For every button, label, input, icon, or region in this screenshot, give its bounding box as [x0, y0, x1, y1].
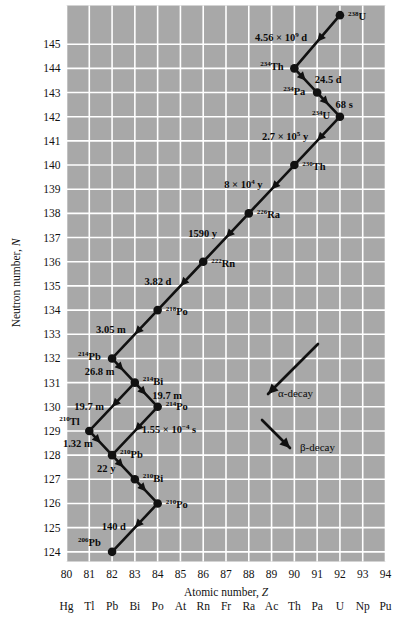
- nuclide-point: [153, 402, 162, 411]
- nuclide-point: [108, 451, 117, 460]
- x-tick-label: 91: [311, 568, 323, 580]
- y-tick-label: 142: [43, 111, 61, 123]
- element-symbol-row: HgTlPbBiPoAtRnFrRaAcThPaUNpPu: [59, 600, 391, 613]
- x-tick-label: 90: [289, 568, 301, 580]
- y-tick-label: 144: [43, 62, 61, 74]
- nuclide-point: [336, 112, 345, 121]
- element-symbol: Fr: [221, 600, 231, 612]
- element-symbol: Np: [356, 600, 370, 613]
- x-tick-label: 80: [61, 568, 73, 580]
- y-tick-label: 126: [43, 497, 61, 509]
- y-tick-label: 136: [43, 256, 61, 268]
- nuclide-point: [153, 499, 162, 508]
- nuclide-point: [85, 427, 94, 436]
- half-life-label: 1.32 m: [63, 438, 93, 449]
- y-tick-label: 141: [43, 135, 61, 147]
- half-life-label: 22 y: [97, 463, 116, 474]
- half-life-label: 26.8 m: [85, 366, 115, 377]
- y-tick-label: 140: [43, 159, 61, 171]
- element-symbol: Tl: [84, 600, 94, 612]
- nuclide-point: [313, 88, 322, 97]
- y-tick-label: 132: [43, 352, 61, 364]
- y-tick-label: 125: [43, 522, 61, 534]
- half-life-label: 3.05 m: [96, 324, 126, 335]
- nuclide-point: [199, 257, 208, 266]
- y-tick-label: 124: [43, 546, 61, 558]
- nuclide-point: [290, 161, 299, 170]
- element-symbol: Pa: [311, 600, 323, 612]
- x-tick-label: 81: [84, 568, 96, 580]
- x-tick-label: 87: [220, 568, 232, 580]
- nuclide-point: [131, 378, 140, 387]
- x-tick-label: 84: [152, 568, 164, 580]
- y-tick-label: 133: [43, 328, 61, 340]
- x-tick-label: 85: [175, 568, 187, 580]
- x-axis-title: Atomic number, Z: [184, 586, 269, 599]
- half-life-label: 24.5 d: [315, 74, 342, 85]
- nuclide-point: [336, 11, 345, 20]
- x-tick-label: 93: [357, 568, 369, 580]
- chart-canvas: 1451441431421411401391381371361351341331…: [0, 0, 412, 619]
- half-life-label: 2.7 × 105 y: [262, 130, 309, 142]
- x-axis-ticks: 808182838485868788899091929394: [61, 568, 392, 580]
- nuclide-point: [290, 64, 299, 73]
- element-symbol: Po: [152, 600, 164, 612]
- decay-series-chart: 1451441431421411401391381371361351341331…: [0, 0, 412, 619]
- y-tick-label: 128: [43, 449, 61, 461]
- legend-label: β-decay: [300, 441, 335, 453]
- y-tick-label: 145: [43, 38, 61, 50]
- half-life-label: 19.7 m: [74, 401, 104, 412]
- half-life-label: 19.7 m: [152, 390, 182, 401]
- nuclide-point: [153, 306, 162, 315]
- y-tick-label: 131: [43, 377, 61, 389]
- half-life-label: 3.82 d: [145, 276, 172, 287]
- y-tick-label: 143: [43, 87, 61, 99]
- y-tick-label: 130: [43, 401, 61, 413]
- element-symbol: Pu: [379, 600, 391, 612]
- half-life-label: 4.56 × 109 d: [255, 31, 307, 43]
- x-tick-label: 88: [243, 568, 255, 580]
- x-tick-label: 92: [334, 568, 346, 580]
- nuclide-point: [108, 354, 117, 363]
- element-symbol: Hg: [59, 600, 73, 613]
- y-tick-label: 127: [43, 473, 61, 485]
- element-symbol: Ac: [265, 600, 278, 612]
- nuclide-point: [108, 548, 117, 557]
- y-tick-label: 139: [43, 183, 61, 195]
- x-tick-label: 94: [380, 568, 392, 580]
- y-axis-title: Neutron number, N: [10, 237, 23, 327]
- x-tick-label: 86: [197, 568, 209, 580]
- nuclide-point: [131, 475, 140, 484]
- element-symbol: Th: [288, 600, 301, 612]
- legend-label: α-decay: [278, 387, 314, 399]
- element-symbol: Rn: [197, 600, 211, 612]
- half-life-label: 8 × 104 y: [224, 178, 263, 190]
- element-symbol: At: [175, 600, 187, 612]
- y-tick-label: 129: [43, 425, 61, 437]
- y-tick-label: 135: [43, 280, 61, 292]
- half-life-label: 140 d: [102, 521, 126, 532]
- x-tick-label: 83: [129, 568, 141, 580]
- half-life-label: 1590 y: [188, 228, 218, 239]
- x-tick-label: 89: [266, 568, 278, 580]
- element-symbol: Bi: [129, 600, 140, 612]
- element-symbol: U: [336, 600, 345, 612]
- nuclide-point: [244, 209, 253, 218]
- y-tick-label: 134: [43, 304, 61, 316]
- y-tick-label: 138: [43, 207, 61, 219]
- element-symbol: Pb: [106, 600, 118, 612]
- half-life-label: 68 s: [336, 99, 353, 110]
- x-tick-label: 82: [106, 568, 118, 580]
- y-tick-label: 137: [43, 232, 61, 244]
- element-symbol: Ra: [242, 600, 255, 612]
